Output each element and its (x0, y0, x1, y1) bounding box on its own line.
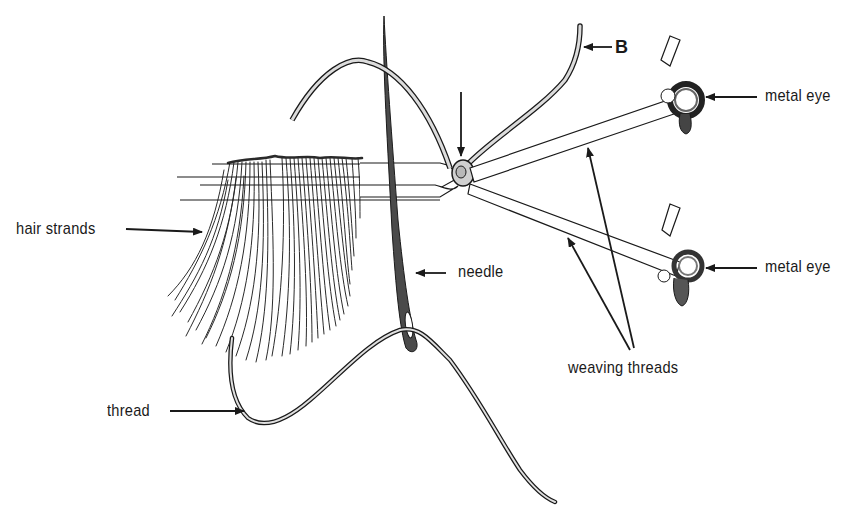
arrow-hair-strands (126, 229, 202, 232)
label-needle: needle (458, 263, 503, 280)
label-b: B (615, 38, 628, 56)
arch-thread (292, 60, 450, 168)
label-metal-eye-top: metal eye (765, 87, 831, 104)
label-thread: thread (107, 402, 150, 419)
lower-thread (230, 329, 555, 502)
label-hair-strands: hair strands (16, 220, 95, 237)
label-metal-eye-bottom: metal eye (765, 258, 831, 275)
metal-eye-top-illustration (661, 36, 702, 134)
hair-strands-illustration (168, 156, 362, 362)
metal-eye-bottom-illustration (658, 204, 702, 306)
diagram-canvas: B metal eye metal eye hair strands needl… (0, 0, 862, 520)
knot (452, 160, 474, 186)
label-weaving-threads: weaving threads (568, 359, 678, 376)
